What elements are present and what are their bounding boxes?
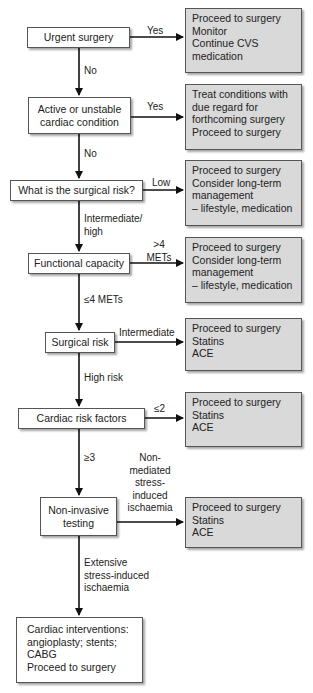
outcome-text: Statins	[192, 409, 295, 422]
outcome-text: Consider long-term	[192, 254, 295, 267]
edge-label-high-risk: High risk	[84, 372, 123, 385]
decision-text: Active or unstable	[38, 103, 121, 116]
outcome-few-risk-factors: Proceed to surgery Statins ACE	[185, 392, 302, 447]
decision-text: Cardiac risk factors	[37, 412, 127, 425]
outcome-intermediate-risk: Proceed to surgery Statins ACE	[185, 318, 302, 371]
outcome-text: management	[192, 189, 295, 202]
decision-surgical-risk-question: What is the surgical risk?	[10, 180, 143, 201]
outcome-text: forthcoming surgery	[192, 113, 295, 126]
edge-label-line: Non-	[124, 452, 176, 465]
outcome-text: – lifestyle, medication	[192, 279, 295, 292]
edge-label-ge3: ≥3	[84, 452, 95, 465]
outcome-text: – lifestyle, medication	[192, 202, 295, 215]
edge-label-yes: Yes	[147, 25, 163, 38]
edge-label-le4-mets: ≤4 METs	[84, 294, 123, 307]
final-text: Cardiac interventions:	[27, 623, 132, 636]
edge-label-no: No	[84, 148, 97, 161]
outcome-non-mediated-ischaemia: Proceed to surgery Statins ACE	[185, 497, 302, 548]
decision-text: Non-invasive	[48, 504, 109, 517]
edge-label-extensive-ischaemia: Extensive stress-induced ischaemia	[84, 557, 149, 595]
outcome-text: ACE	[192, 526, 295, 539]
outcome-text: Treat conditions with	[192, 88, 295, 101]
decision-text: testing	[63, 517, 94, 530]
outcome-low-risk: Proceed to surgery Consider long-term ma…	[185, 160, 302, 226]
edge-label-intermediate-high: Intermediate/ high	[84, 213, 142, 238]
edge-label-line: mediated	[124, 465, 176, 478]
outcome-text: Proceed to surgery	[192, 396, 295, 409]
edge-label-line: Extensive	[84, 557, 149, 570]
decision-text: cardiac condition	[40, 116, 119, 129]
outcome-text: ACE	[192, 347, 295, 360]
edge-label-line: >4	[142, 239, 176, 252]
edge-label-yes: Yes	[147, 101, 163, 114]
edge-label-line: ischaemia	[84, 582, 149, 595]
outcome-text: Statins	[192, 335, 295, 348]
decision-text: Surgical risk	[51, 336, 108, 349]
outcome-text: ACE	[192, 421, 295, 434]
outcome-text: Proceed to surgery	[192, 12, 295, 25]
decision-non-invasive-testing: Non-invasive testing	[40, 497, 117, 536]
outcome-text: Proceed to surgery	[192, 501, 295, 514]
edge-label-line: stress-	[124, 477, 176, 490]
outcome-text: Statins	[192, 514, 295, 527]
decision-cardiac-risk-factors: Cardiac risk factors	[18, 408, 145, 429]
outcome-text: management	[192, 266, 295, 279]
edge-label-low: Low	[152, 177, 170, 190]
outcome-text: Proceed to surgery	[192, 322, 295, 335]
edge-label-line: high	[84, 226, 142, 239]
outcome-urgent: Proceed to surgery Monitor Continue CVS …	[185, 8, 302, 73]
outcome-text: due regard for	[192, 101, 295, 114]
outcome-text: Continue CVS	[192, 37, 295, 50]
edge-label-line: stress-induced	[84, 570, 149, 583]
final-text: CABG	[27, 648, 132, 661]
final-cardiac-interventions: Cardiac interventions: angioplasty; sten…	[16, 617, 143, 683]
outcome-good-functional-capacity: Proceed to surgery Consider long-term ma…	[185, 237, 302, 303]
outcome-text: Proceed to surgery	[192, 241, 295, 254]
edge-label-le2: ≤2	[154, 403, 165, 416]
decision-text: What is the surgical risk?	[18, 184, 135, 197]
edge-label-no: No	[84, 65, 97, 78]
outcome-active-condition: Treat conditions with due regard for for…	[185, 84, 302, 150]
edge-label-line: Intermediate/	[84, 213, 142, 226]
decision-functional-capacity: Functional capacity	[28, 253, 130, 274]
final-text: Proceed to surgery	[27, 661, 132, 674]
decision-surgical-risk: Surgical risk	[45, 332, 115, 353]
outcome-text: Monitor	[192, 25, 295, 38]
outcome-text: Consider long-term	[192, 177, 295, 190]
edge-label-gt4-mets: >4 METs	[142, 239, 176, 264]
edge-label-non-mediated-ischaemia: Non- mediated stress- induced ischaemia	[124, 452, 176, 515]
edge-label-line: induced	[124, 490, 176, 503]
outcome-text: Proceed to surgery	[192, 164, 295, 177]
decision-text: Functional capacity	[34, 257, 124, 270]
edge-label-intermediate: Intermediate	[119, 327, 175, 340]
edge-label-line: ischaemia	[124, 502, 176, 515]
decision-active-cardiac-condition: Active or unstable cardiac condition	[28, 97, 131, 134]
edge-label-line: METs	[142, 252, 176, 265]
outcome-text: medication	[192, 50, 295, 63]
decision-urgent-surgery: Urgent surgery	[27, 27, 130, 48]
outcome-text: Proceed to surgery	[192, 126, 295, 139]
decision-text: Urgent surgery	[44, 31, 113, 44]
final-text: angioplasty; stents;	[27, 636, 132, 649]
